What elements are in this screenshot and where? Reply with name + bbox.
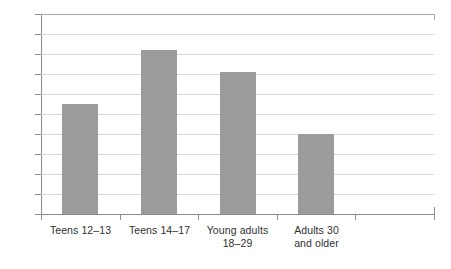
top-gridline-right-tick [434,14,435,20]
y-tick-mark-30 [35,154,41,155]
bar [141,50,177,214]
gridline-90 [41,34,434,35]
bar [220,72,256,214]
gridline-0 [41,214,434,215]
gridline-80 [41,54,434,55]
x-axis-category-label-line: Teens 14–17 [120,224,199,237]
x-tick-mark-4 [355,214,356,220]
x-axis-category-label-line: 18–29 [198,237,277,250]
x-axis-category-label-line: Teens 12–13 [41,224,120,237]
y-tick-mark-40 [35,134,41,135]
y-tick-mark-100 [35,14,41,15]
bar [298,134,334,214]
y-tick-mark-80 [35,54,41,55]
bar [62,104,98,214]
y-tick-mark-60 [35,94,41,95]
x-axis-category-label: Teens 12–13 [41,224,120,237]
x-tick-mark-0 [41,214,42,220]
x-tick-mark-1 [120,214,121,220]
y-tick-mark-20 [35,174,41,175]
x-axis-category-label: Young adults18–29 [198,224,277,250]
y-tick-mark-70 [35,74,41,75]
x-axis-category-label: Adults 30and older [277,224,356,250]
y-tick-mark-50 [35,114,41,115]
x-axis-category-label-line: Young adults [198,224,277,237]
y-tick-mark-10 [35,194,41,195]
x-tick-mark-2 [198,214,199,220]
x-axis-category-label-line: and older [277,237,356,250]
x-tick-mark-3 [277,214,278,220]
x-axis-category-label: Teens 14–17 [120,224,199,237]
x-axis-category-label-line: Adults 30 [277,224,356,237]
y-tick-mark-90 [35,34,41,35]
x-tick-mark-5 [434,214,435,220]
gridline-100 [41,14,434,15]
bar-chart: 0102030405060708090100 Teens 12–13Teens … [0,0,451,269]
